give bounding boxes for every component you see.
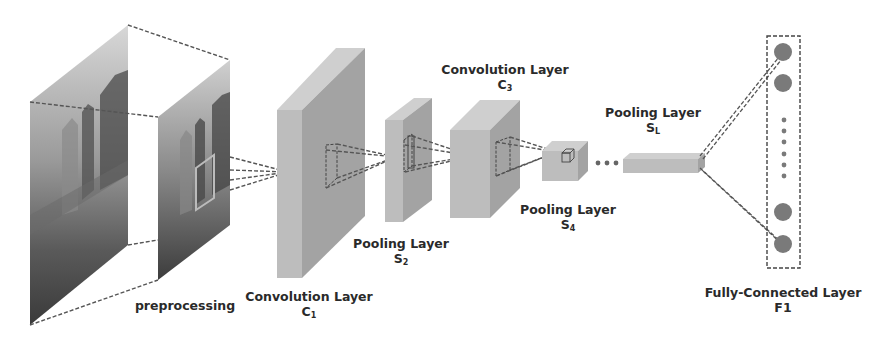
label-pool-sl: Pooling Layer SL xyxy=(605,105,701,139)
stage-name: Fully-Connected Layer xyxy=(705,285,862,300)
label-conv-c1: Convolution Layer C1 xyxy=(245,289,372,323)
stage-symbol: SL xyxy=(605,120,701,139)
stage-symbol: S2 xyxy=(353,251,449,270)
ellipsis-dots xyxy=(596,161,619,166)
stage-name: Pooling Layer xyxy=(353,236,449,251)
fc-node xyxy=(774,203,792,221)
label-conv-c3: Convolution Layer C3 xyxy=(441,62,568,96)
stage-name: preprocessing xyxy=(135,298,235,313)
stage-name: Convolution Layer xyxy=(245,289,372,304)
stage-symbol: C3 xyxy=(441,77,568,96)
fc-node xyxy=(774,43,792,61)
fc-node xyxy=(774,74,792,92)
stage-name: Convolution Layer xyxy=(441,62,568,77)
fc-node xyxy=(774,235,792,253)
stage-symbol: C1 xyxy=(245,304,372,323)
input-image-panel xyxy=(30,25,128,325)
pooling-layer-s2-block xyxy=(385,98,432,222)
stage-name: Pooling Layer xyxy=(605,105,701,120)
pooling-layer-sl-block xyxy=(623,153,705,173)
conv-layer-c3-block xyxy=(450,100,520,218)
label-preprocessing: preprocessing xyxy=(135,298,235,313)
label-fully-connected-f1: Fully-Connected Layer F1 xyxy=(705,285,862,315)
label-pool-s2: Pooling Layer S2 xyxy=(353,236,449,270)
stage-symbol: F1 xyxy=(705,300,862,315)
conv-layer-c1-block xyxy=(277,48,365,278)
label-pool-s4: Pooling Layer S4 xyxy=(520,202,616,236)
stage-name: Pooling Layer xyxy=(520,202,616,217)
preprocessed-image-panel xyxy=(158,60,230,280)
pooling-layer-s4-block xyxy=(542,141,588,181)
stage-symbol: S4 xyxy=(520,217,616,236)
fc-connection-lines xyxy=(700,52,785,247)
